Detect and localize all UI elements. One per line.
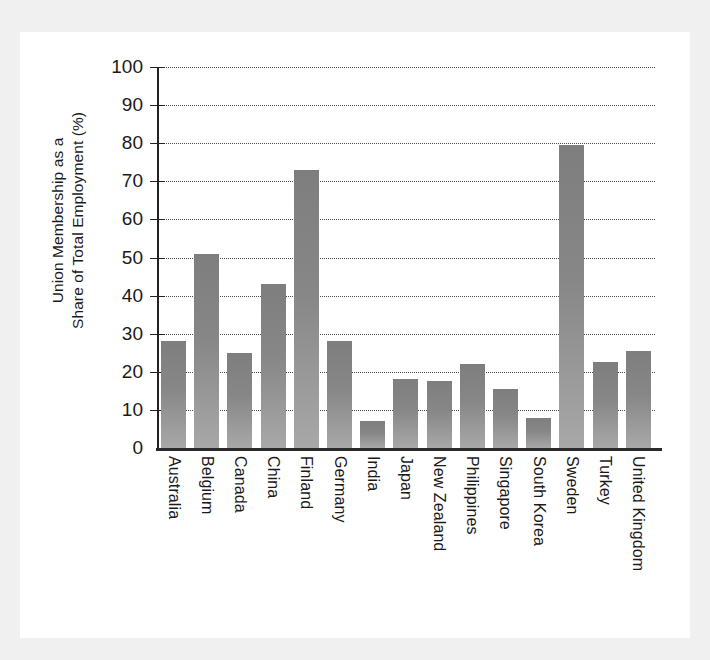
x-label-slot: Sweden [555,448,588,638]
y-axis-tick-label: 100 [111,56,143,78]
bar[interactable] [227,353,252,448]
bar[interactable] [493,389,518,448]
bar[interactable] [559,145,584,448]
x-label-slot: India [356,448,389,638]
bar-slot [522,67,555,448]
y-axis-title-line2: Share of Total Employment (%) [68,60,88,380]
x-axis-tick-label: Sweden [563,456,581,514]
bar[interactable] [261,284,286,448]
bar-slot [257,67,290,448]
x-axis-tick-label: United Kingdom [629,456,647,571]
chart-panel: Union Membership as a Share of Total Emp… [20,32,690,638]
y-axis-tick-label: 30 [122,323,143,345]
bar-slot [555,67,588,448]
bar[interactable] [526,418,551,448]
bar-slot [190,67,223,448]
x-label-slot: South Korea [522,448,555,638]
y-axis-tick-label: 0 [132,437,143,459]
y-axis-tick-label: 40 [122,285,143,307]
x-label-slot: Belgium [190,448,223,638]
x-axis-tick-label: Finland [297,456,315,509]
y-axis-tick-label: 70 [122,170,143,192]
x-label-slot: Singapore [489,448,522,638]
bar-slot [423,67,456,448]
x-label-slot: Philippines [456,448,489,638]
bar[interactable] [626,351,651,448]
y-axis-title: Union Membership as a Share of Total Emp… [48,60,89,380]
bar[interactable] [360,421,385,448]
x-label-slot: New Zealand [423,448,456,638]
x-axis-tick-label: Belgium [198,456,216,515]
x-label-slot: Japan [389,448,422,638]
x-axis-tick-labels: AustraliaBelgiumCanadaChinaFinlandGerman… [157,448,655,638]
x-axis-tick-label: Philippines [463,456,481,534]
bar-slot [622,67,655,448]
bar-slot [389,67,422,448]
x-axis-tick-label: Australia [165,456,183,519]
x-axis-tick-label: China [264,456,282,498]
y-axis-tick-label: 80 [122,132,143,154]
bar[interactable] [393,379,418,448]
bar-slot [157,67,190,448]
x-axis-tick-label: Japan [397,456,415,500]
x-axis-tick-label: India [364,456,382,491]
plot-area: 1009080706050403020100 [157,67,655,448]
y-axis-tick-label: 10 [122,399,143,421]
x-label-slot: Australia [157,448,190,638]
x-label-slot: Canada [223,448,256,638]
bar-slot [456,67,489,448]
x-axis-tick-label: Canada [231,456,249,513]
bar[interactable] [161,341,186,448]
bar-slot [356,67,389,448]
x-label-slot: Germany [323,448,356,638]
bar-slot [489,67,522,448]
x-label-slot: Finland [290,448,323,638]
bar[interactable] [327,341,352,448]
y-axis-tick-label: 20 [122,361,143,383]
bar-slot [290,67,323,448]
bar-slot [223,67,256,448]
y-axis-tick-label: 90 [122,94,143,116]
bar[interactable] [593,362,618,448]
x-label-slot: United Kingdom [622,448,655,638]
x-axis-tick-label: South Korea [530,456,548,546]
x-axis-tick-label: Turkey [596,456,614,505]
bar[interactable] [194,254,219,448]
x-label-slot: China [257,448,290,638]
bar-slot [323,67,356,448]
chart-figure: Union Membership as a Share of Total Emp… [0,0,710,660]
bar[interactable] [427,381,452,448]
x-axis-tick-label: New Zealand [430,456,448,551]
y-axis-tick-label: 60 [122,208,143,230]
bar-slot [588,67,621,448]
bar[interactable] [294,170,319,448]
x-label-slot: Turkey [588,448,621,638]
y-axis-title-line1: Union Membership as a [49,138,66,304]
bar[interactable] [460,364,485,448]
x-axis-tick-label: Germany [331,456,349,523]
y-axis-tick-label: 50 [122,247,143,269]
x-axis-tick-label: Singapore [496,456,514,530]
bar-series [157,67,655,448]
